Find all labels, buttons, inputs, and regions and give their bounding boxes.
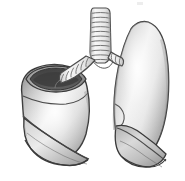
lungs-svg-canvas [0, 0, 185, 181]
top-edge-artifact [137, 2, 143, 5]
lungs-illustration: Human Lungs Anatomical Illustration [0, 0, 185, 181]
